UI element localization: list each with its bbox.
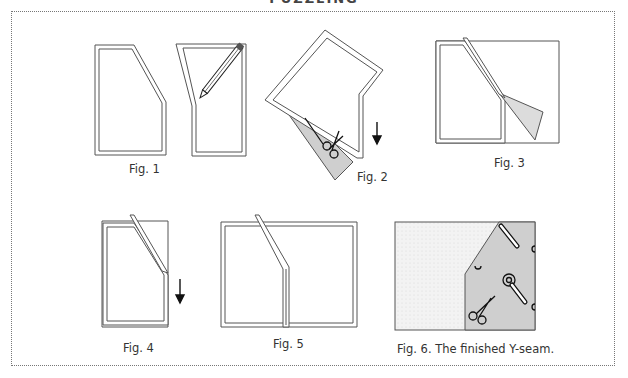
caption-fig-6: Fig. 6. The finished Y-seam. [397, 342, 554, 356]
seam-allowance [255, 215, 289, 327]
fabric-piece-right [176, 44, 246, 156]
arrow-down-icon [373, 122, 381, 144]
caption-fig-4: Fig. 4 [123, 341, 154, 355]
caption-fig-5: Fig. 5 [273, 337, 304, 351]
folded-corner-flap [499, 93, 543, 140]
fabric-piece-left [95, 45, 166, 155]
figure-5 [215, 215, 365, 330]
caption-fig-3: Fig. 3 [494, 156, 525, 170]
caption-fig-1: Fig. 1 [129, 162, 160, 176]
caption-fig-2: Fig. 2 [357, 170, 388, 184]
section-heading: PUZZLING [0, 0, 628, 6]
figure-3 [433, 38, 563, 148]
figure-4 [100, 215, 190, 330]
pencil-icon [198, 43, 245, 100]
figure-2 [265, 30, 400, 190]
arrow-down-icon [176, 279, 184, 303]
figure-1 [90, 40, 250, 160]
figure-6 [393, 218, 538, 333]
